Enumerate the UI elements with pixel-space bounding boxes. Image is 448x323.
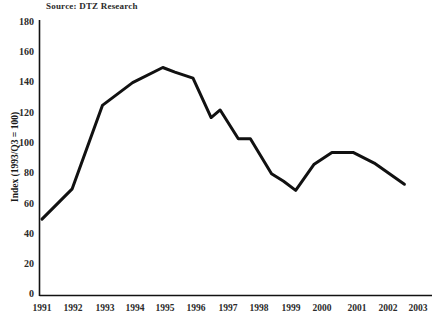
chart-plot-area (0, 0, 448, 323)
chart-container: Source: DTZ Research Index (1993/Q3 = 10… (0, 0, 448, 323)
data-series-line (42, 68, 404, 220)
